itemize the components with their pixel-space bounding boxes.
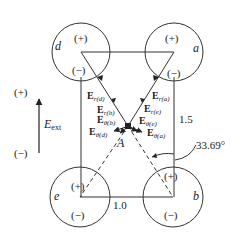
- svg-text:Eθ(d): Eθ(d): [89, 126, 108, 139]
- charge-d-minus: (−): [72, 64, 86, 77]
- angle-label: 33.69°: [196, 139, 225, 151]
- dimension-width: 1.0: [113, 199, 127, 211]
- vector-labels-left: Er(d) Er(b) Eθ(b) Eθ(d): [87, 90, 116, 139]
- charge-e-plus: (+): [71, 180, 85, 193]
- external-field: (+) Eext (−): [14, 86, 62, 160]
- svg-text:Er(a): Er(a): [152, 90, 170, 103]
- ext-field-minus: (−): [14, 147, 28, 160]
- arrowheads: [97, 75, 159, 103]
- charge-d-label: d: [55, 39, 62, 53]
- svg-text:Eθ(a): Eθ(a): [147, 127, 166, 140]
- charge-e-minus: (−): [71, 209, 85, 222]
- svg-text:Eext: Eext: [43, 117, 62, 132]
- angle-arrowhead: [152, 153, 157, 158]
- svg-text:Er(d): Er(d): [87, 90, 105, 103]
- charge-d-plus: (+): [74, 32, 88, 45]
- angle-leader: [175, 145, 196, 160]
- vector-labels-right: Er(a) Er(e) Eθ(e) Eθ(a): [139, 90, 170, 140]
- point-a-label: A: [116, 136, 125, 150]
- ext-field-plus: (+): [14, 86, 28, 99]
- charge-a-label: a: [193, 41, 199, 55]
- svg-text:Er(e): Er(e): [144, 103, 162, 116]
- diagram-canvas: (+) (−) d (+) (−) a (+) (−) e (+) (−) b: [0, 0, 240, 244]
- dimension-height: 1.5: [179, 113, 193, 125]
- charge-b-label: b: [193, 189, 199, 203]
- charge-a-minus: (−): [167, 67, 181, 80]
- charge-b-minus: (−): [164, 209, 178, 222]
- charge-a-plus: (+): [165, 32, 179, 45]
- charge-b-plus: (+): [164, 170, 178, 183]
- charge-e-label: e: [54, 189, 60, 203]
